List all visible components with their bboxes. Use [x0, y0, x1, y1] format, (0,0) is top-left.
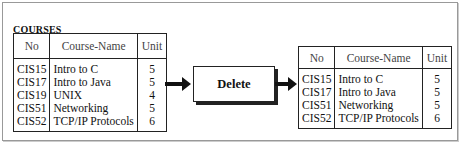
cell-no: CIS51	[299, 99, 335, 112]
cell-course-name: Intro to Java	[50, 76, 137, 89]
cell-course-name: TCP/IP Protocols	[335, 112, 422, 129]
table-row: CIS17 Intro to Java 5	[299, 86, 452, 99]
cell-course-name: Networking	[335, 99, 422, 112]
cell-course-name: Networking	[50, 102, 137, 115]
column-header-course-name: Course-Name	[50, 34, 137, 59]
output-arrow-icon	[275, 82, 289, 86]
table-row: CIS51 Networking 5	[299, 99, 452, 112]
cell-unit: 4	[137, 89, 166, 102]
cell-no: CIS15	[299, 69, 335, 87]
cell-course-name: TCP/IP Protocols	[50, 115, 137, 132]
cell-unit: 5	[137, 76, 166, 89]
table-row: CIS17 Intro to Java 5	[14, 76, 167, 89]
operation-box: Delete	[193, 66, 275, 102]
table-row: CIS51 Networking 5	[14, 102, 167, 115]
column-header-no: No	[299, 47, 335, 69]
cell-no: CIS19	[14, 89, 50, 102]
table-row: CIS15 Intro to C 5	[299, 69, 452, 87]
cell-unit: 6	[422, 112, 451, 129]
cell-unit: 6	[137, 115, 166, 132]
table-header-row: No Course-Name Unit	[14, 34, 167, 59]
table-row: CIS52 TCP/IP Protocols 6	[14, 115, 167, 132]
column-header-course-name: Course-Name	[335, 47, 422, 69]
cell-no: CIS15	[14, 59, 50, 77]
output-table: No Course-Name Unit CIS15 Intro to C 5 C…	[298, 46, 452, 129]
table-row: CIS52 TCP/IP Protocols 6	[299, 112, 452, 129]
table-row: CIS15 Intro to C 5	[14, 59, 167, 77]
cell-unit: 5	[137, 59, 166, 77]
input-arrow-icon	[165, 82, 183, 86]
cell-course-name: Intro to C	[50, 59, 137, 77]
cell-unit: 5	[422, 86, 451, 99]
cell-unit: 5	[422, 99, 451, 112]
cell-course-name: UNIX	[50, 89, 137, 102]
column-header-no: No	[14, 34, 50, 59]
cell-unit: 5	[137, 102, 166, 115]
column-header-unit: Unit	[422, 47, 451, 69]
cell-no: CIS52	[299, 112, 335, 129]
cell-course-name: Intro to C	[335, 69, 422, 87]
table-header-row: No Course-Name Unit	[299, 47, 452, 69]
cell-no: CIS51	[14, 102, 50, 115]
input-table: No Course-Name Unit CIS15 Intro to C 5 C…	[13, 33, 167, 132]
operation-label: Delete	[217, 77, 250, 92]
cell-no: CIS17	[14, 76, 50, 89]
table-row: CIS19 UNIX 4	[14, 89, 167, 102]
cell-unit: 5	[422, 69, 451, 87]
column-header-unit: Unit	[137, 34, 166, 59]
cell-course-name: Intro to Java	[335, 86, 422, 99]
cell-no: CIS52	[14, 115, 50, 132]
cell-no: CIS17	[299, 86, 335, 99]
